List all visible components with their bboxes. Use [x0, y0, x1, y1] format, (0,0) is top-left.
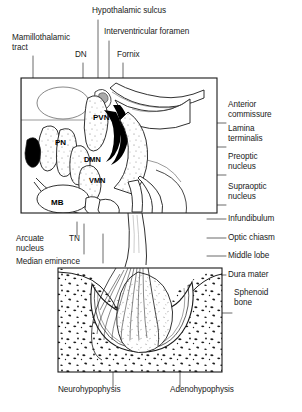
- label-arcuate-nucleus-line1: Arcuate: [16, 234, 44, 243]
- label-neurohypophysis: Neurohypophysis: [58, 385, 121, 394]
- label-dura-mater: Dura mater: [228, 270, 268, 279]
- label-mamillothalamic-tract-line1: Mamillothalamic: [12, 33, 70, 42]
- label-interventricular-foramen: Interventricular foramen: [104, 27, 189, 36]
- label-pvn: PVN: [93, 113, 109, 122]
- label-tn: TN: [69, 234, 80, 243]
- label-vmn: VMN: [89, 176, 105, 185]
- label-arcuate-nucleus-line2: nucleus: [16, 244, 44, 253]
- stalk-bridge: [125, 213, 147, 267]
- label-mb: MB: [51, 198, 63, 207]
- figure-canvas: Hypothalamic sulcus Interventricular for…: [0, 0, 302, 412]
- label-anterior-commissure-line2: commissure: [228, 110, 272, 119]
- label-lamina-terminalis-line2: terminalis: [228, 134, 263, 143]
- label-supraoptic-nucleus-line2: nucleus: [228, 192, 256, 201]
- label-median-eminence: Median eminence: [16, 257, 80, 266]
- label-dmn: DMN: [84, 155, 101, 164]
- label-dn: DN: [75, 50, 87, 59]
- label-sphenoid-bone-line1: Sphenoid: [234, 288, 268, 297]
- label-infundibulum: Infundibulum: [228, 214, 274, 223]
- label-optic-chiasm: Optic chiasm: [228, 233, 275, 242]
- lower-panel-contents: [58, 268, 222, 372]
- label-sphenoid-bone-line2: bone: [234, 298, 252, 307]
- label-preoptic-nucleus-line1: Preoptic: [228, 152, 258, 161]
- label-mamillothalamic-tract-line2: tract: [12, 43, 28, 52]
- label-pn: PN: [55, 138, 66, 147]
- label-supraoptic-nucleus-line1: Supraoptic: [228, 182, 267, 191]
- label-hypothalamic-sulcus: Hypothalamic sulcus: [92, 6, 166, 15]
- label-anterior-commissure-line1: Anterior: [228, 100, 256, 109]
- label-adenohypophysis: Adenohypophysis: [170, 385, 234, 394]
- label-middle-lobe: Middle lobe: [228, 251, 269, 260]
- label-lamina-terminalis-line1: Lamina: [228, 124, 255, 133]
- label-fornix: Fornix: [117, 50, 139, 59]
- label-preoptic-nucleus-line2: nucleus: [228, 162, 256, 171]
- anatomy-drawing: [0, 0, 302, 412]
